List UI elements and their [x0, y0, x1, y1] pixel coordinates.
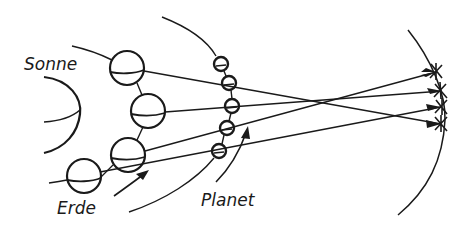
planet-orbit: [162, 17, 216, 56]
retrograde-motion-diagram: Sonne E: [0, 0, 469, 236]
star-icon: [421, 63, 442, 80]
planet-motion-arrow: [216, 126, 250, 182]
earth-icon: [110, 51, 144, 85]
diagram-canvas: Sonne E: [0, 0, 469, 236]
earth-icon: [67, 159, 101, 193]
sight-lines: [100, 71, 442, 178]
earth-label: Erde: [57, 198, 96, 218]
earth-orbit: [72, 46, 112, 60]
star-icon: [427, 82, 447, 99]
planet-icon: [212, 144, 226, 158]
earth-icon: [131, 94, 165, 128]
earth-path: [137, 83, 143, 140]
celestial-sphere: [398, 30, 445, 215]
sun-label: Sonne: [24, 54, 77, 74]
earth-orbit-lower: [49, 180, 67, 183]
planet-icon: [214, 57, 228, 71]
planet-icon: [222, 76, 236, 90]
sun-icon: [44, 77, 80, 153]
earth-motion-arrow: [114, 170, 149, 196]
planet-label: Planet: [201, 190, 256, 210]
